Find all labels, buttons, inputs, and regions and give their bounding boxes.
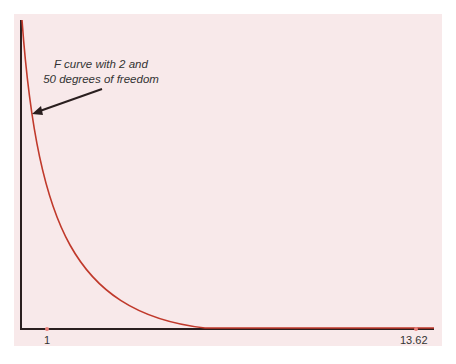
chart-plot: [0, 0, 456, 364]
x-tick-label-13-62: 13.62: [400, 334, 428, 346]
x-tick-label-1: 1: [44, 334, 50, 346]
curve-annotation: F curve with 2 and 50 degrees of freedom: [36, 57, 166, 87]
annotation-line-2: 50 degrees of freedom: [36, 72, 166, 87]
annotation-arrow: [37, 89, 102, 112]
tick-marker-13-62: [414, 327, 418, 331]
arrow-head-icon: [32, 106, 43, 115]
annotation-line-1: F curve with 2 and: [36, 57, 166, 72]
tick-marker-1: [45, 327, 49, 331]
